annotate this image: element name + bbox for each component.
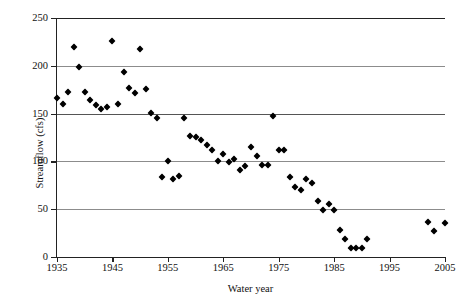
data-point — [286, 173, 293, 180]
x-tick-label-1955: 1955 — [157, 263, 178, 274]
y-tick-100 — [51, 161, 57, 162]
x-tick-label-1995: 1995 — [379, 263, 400, 274]
data-point — [308, 180, 315, 187]
data-point — [281, 146, 288, 153]
gridline-200 — [57, 66, 445, 67]
data-point — [430, 228, 437, 235]
data-point — [220, 150, 227, 157]
gridline-250 — [57, 18, 445, 19]
data-point — [325, 201, 332, 208]
y-tick-label-250: 250 — [32, 13, 48, 24]
y-tick-label-50: 50 — [38, 204, 49, 215]
data-point — [358, 245, 365, 252]
data-point — [53, 95, 60, 102]
y-tick-label-200: 200 — [32, 61, 48, 72]
plot-area: 050100150200250 193519451955196519751985… — [56, 18, 445, 258]
data-point — [297, 187, 304, 194]
y-tick-50 — [51, 209, 57, 210]
data-point — [81, 88, 88, 95]
data-point — [253, 152, 260, 159]
data-point — [314, 197, 321, 204]
streamflow-scatter-figure: Streamflow (cfs) Water year 050100150200… — [0, 0, 469, 305]
data-point — [120, 68, 127, 75]
data-point — [126, 84, 133, 91]
data-point — [247, 144, 254, 151]
gridline-150 — [57, 114, 445, 115]
data-point — [109, 37, 116, 44]
data-point — [164, 158, 171, 165]
y-tick-label-100: 100 — [32, 156, 48, 167]
data-point — [181, 115, 188, 122]
data-point — [441, 219, 448, 226]
x-tick-label-2005: 2005 — [435, 263, 456, 274]
y-tick-150 — [51, 114, 57, 115]
data-point — [264, 162, 271, 169]
data-point — [137, 45, 144, 52]
x-tick-label-1965: 1965 — [213, 263, 234, 274]
data-point — [87, 97, 94, 104]
x-axis-title: Water year — [56, 283, 445, 294]
data-point — [342, 235, 349, 242]
data-point — [214, 158, 221, 165]
data-point — [142, 85, 149, 92]
gridline-50 — [57, 209, 445, 210]
y-axis-title: Streamflow (cfs) — [34, 117, 45, 188]
data-point — [331, 207, 338, 214]
data-point — [59, 100, 66, 107]
x-tick-label-1985: 1985 — [324, 263, 345, 274]
data-point — [103, 103, 110, 110]
y-tick-250 — [51, 18, 57, 19]
data-point — [65, 88, 72, 95]
y-tick-label-0: 0 — [43, 252, 48, 263]
data-point — [114, 100, 121, 107]
x-tick-label-1945: 1945 — [102, 263, 123, 274]
data-point — [148, 109, 155, 116]
data-point — [320, 207, 327, 214]
data-point — [198, 137, 205, 144]
x-tick-label-1975: 1975 — [268, 263, 289, 274]
x-tick-label-1935: 1935 — [47, 263, 68, 274]
data-point — [76, 63, 83, 70]
data-point — [336, 227, 343, 234]
y-tick-200 — [51, 66, 57, 67]
data-point — [153, 115, 160, 122]
data-point — [425, 218, 432, 225]
data-point — [131, 89, 138, 96]
data-point — [209, 146, 216, 153]
data-point — [364, 235, 371, 242]
y-tick-label-150: 150 — [32, 108, 48, 119]
data-point — [159, 173, 166, 180]
gridline-100 — [57, 161, 445, 162]
data-point — [70, 43, 77, 50]
